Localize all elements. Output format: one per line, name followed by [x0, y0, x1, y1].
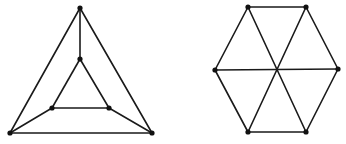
vertex-u — [212, 67, 217, 72]
edge-t-u — [215, 70, 248, 132]
edge-b-c — [52, 59, 80, 108]
vertex-r — [335, 66, 340, 71]
vertex-d — [106, 105, 111, 110]
edge-r-s — [306, 69, 338, 132]
vertex-b — [77, 56, 82, 61]
edge-u-r — [215, 69, 338, 70]
nested-triangle-graph — [7, 5, 154, 135]
edge-a-f — [80, 8, 152, 133]
vertex-t — [245, 129, 250, 134]
vertex-a — [77, 5, 82, 10]
edge-a-e — [10, 8, 80, 133]
vertex-f — [149, 130, 154, 135]
hexagon-graph — [212, 4, 340, 134]
vertex-c — [49, 105, 54, 110]
edge-b-d — [80, 59, 109, 108]
vertex-s — [303, 129, 308, 134]
edge-q-r — [306, 7, 338, 69]
vertex-p — [245, 4, 250, 9]
vertex-q — [303, 4, 308, 9]
graph-diagram-canvas — [0, 0, 346, 144]
vertex-e — [7, 130, 12, 135]
edge-u-p — [215, 7, 248, 70]
